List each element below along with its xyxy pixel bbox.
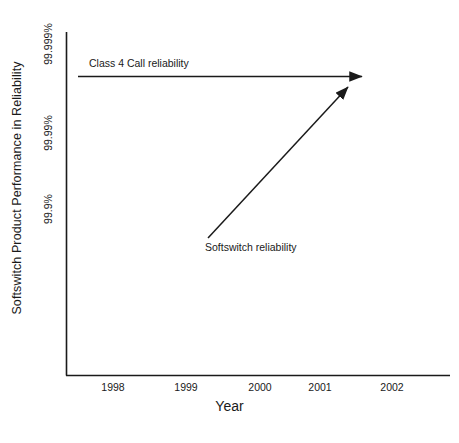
y-axis-title: Softswitch Product Performance in Reliab… xyxy=(0,0,34,375)
x-tick-2001: 2001 xyxy=(308,381,331,393)
x-tick-label: 2001 xyxy=(308,381,331,393)
x-tick-2002: 2002 xyxy=(380,381,403,393)
annotation-class4-call-reliability: Class 4 Call reliability xyxy=(89,57,189,69)
softswitch-reliability-arrow xyxy=(208,87,348,238)
x-tick-label: 2000 xyxy=(248,381,271,393)
y-tick-label: 99.99% xyxy=(42,93,54,173)
x-tick-label: 2002 xyxy=(380,381,403,393)
y-axis-title-text: Softswitch Product Performance in Reliab… xyxy=(10,61,24,314)
x-tick-1999: 1999 xyxy=(174,381,197,393)
y-tick-label: 99.9% xyxy=(42,169,54,249)
annotation-softswitch-reliability: Softswitch reliability xyxy=(205,241,297,253)
chart-canvas: Softswitch Product Performance in Reliab… xyxy=(0,0,459,443)
chart-graphics xyxy=(0,0,459,443)
x-tick-label: 1999 xyxy=(174,381,197,393)
x-axis-title: Year xyxy=(0,398,459,414)
x-tick-1998: 1998 xyxy=(101,381,124,393)
x-tick-label: 1998 xyxy=(101,381,124,393)
y-tick-label: 99.999% xyxy=(42,4,54,84)
x-tick-2000: 2000 xyxy=(248,381,271,393)
